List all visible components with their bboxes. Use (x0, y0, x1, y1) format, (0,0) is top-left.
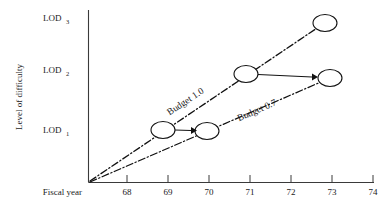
x-tick-label-69: 69 (164, 187, 174, 197)
y-tick-label-lod3-base: LOD (43, 13, 62, 23)
axis-group (89, 10, 375, 183)
series-label-budget-1-0: Budget 1.0 (165, 86, 205, 117)
x-tick-labels: 68 69 70 71 72 73 74 (123, 187, 379, 197)
series-budget-0-7 (90, 70, 342, 183)
y-tick-label-lod2: LOD 2 (43, 65, 69, 77)
y-axis-title: Level of difficulty (14, 64, 24, 130)
series-budget-1-0-marker-71 (234, 66, 258, 83)
x-tick-label-73: 73 (328, 187, 338, 197)
y-tick-label-lod1-base: LOD (43, 125, 62, 135)
transition-arrow-lod1 (175, 127, 197, 134)
y-tick-label-lod2-base: LOD (43, 65, 62, 75)
x-tick-label-74: 74 (369, 187, 379, 197)
series-budget-1-0 (90, 15, 337, 182)
x-tick-label-70: 70 (205, 187, 215, 197)
y-tick-label-lod2-sub: 2 (66, 70, 69, 77)
y-tick-label-lod1-sub: 1 (66, 130, 69, 137)
chart-page: 68 69 70 71 72 73 74 Fiscal year Level o… (0, 0, 381, 213)
transition-arrow-lod2-shaft (258, 75, 312, 78)
series-label-budget-0-7: Budget 0.7 (236, 97, 278, 123)
x-tick-label-72: 72 (287, 187, 296, 197)
series-budget-1-0-marker-69 (151, 122, 175, 139)
x-tick-label-68: 68 (123, 187, 133, 197)
series-budget-1-0-marker-73 (313, 15, 337, 32)
series-budget-0-7-marker-73 (318, 70, 342, 87)
series-budget-0-7-marker-70 (195, 123, 219, 140)
x-tick-marks (127, 175, 373, 183)
level-of-difficulty-vs-fiscal-year-chart: 68 69 70 71 72 73 74 Fiscal year Level o… (0, 0, 381, 213)
y-tick-label-lod1: LOD 1 (43, 125, 69, 137)
y-tick-labels: LOD 3 LOD 2 LOD 1 (43, 13, 69, 137)
transition-arrow-lod1-shaft (175, 130, 191, 131)
x-axis-title: Fiscal year (43, 187, 82, 197)
y-tick-label-lod3: LOD 3 (43, 13, 69, 25)
y-tick-label-lod3-sub: 3 (66, 18, 69, 25)
series-budget-1-0-line (90, 18, 332, 181)
transition-arrow-lod2-head (312, 74, 318, 81)
transition-arrow-lod2 (258, 74, 318, 81)
x-tick-label-71: 71 (246, 187, 255, 197)
